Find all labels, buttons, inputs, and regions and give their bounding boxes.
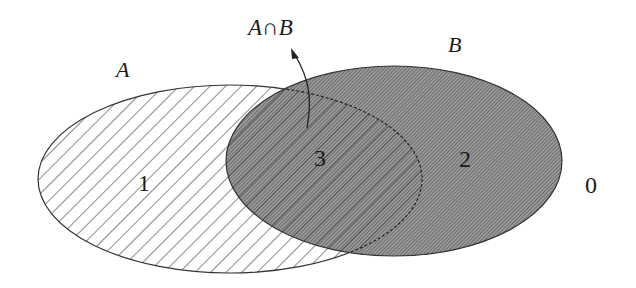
set-b-label: B: [448, 32, 461, 57]
region-label-2: 2: [459, 146, 471, 172]
venn-diagram: A B A∩B 1 2 3 0: [0, 0, 636, 288]
region-label-3: 3: [314, 145, 326, 171]
set-a-label: A: [114, 57, 130, 82]
intersection-label: A∩B: [246, 15, 293, 40]
region-label-1: 1: [138, 170, 150, 196]
region-label-0: 0: [585, 172, 597, 198]
